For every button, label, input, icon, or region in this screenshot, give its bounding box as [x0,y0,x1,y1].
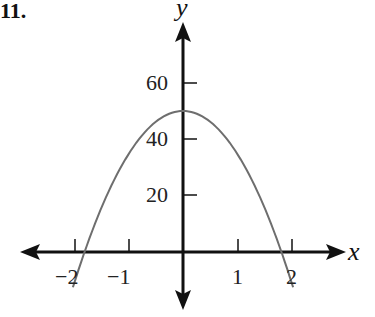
x-tick-label: −2 [55,264,78,289]
x-tick-label: 2 [286,264,297,289]
y-tick-label: 40 [146,126,168,151]
x-tick-label: −1 [107,264,130,289]
y-axis [175,22,191,310]
x-tick-label: 1 [232,264,243,289]
y-tick-label: 20 [146,182,168,207]
parabola-graph: −2 −1 1 2 20 40 60 x y [0,0,375,317]
x-axis-label: x [347,237,360,266]
y-tick-label: 60 [146,70,168,95]
y-axis-label: y [173,0,188,22]
